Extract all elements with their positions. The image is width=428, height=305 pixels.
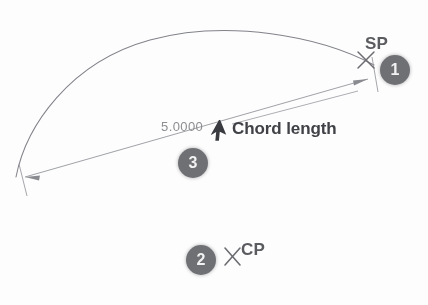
- start-point-label: SP: [365, 34, 388, 54]
- dimension-value-label: 5.0000: [161, 119, 203, 134]
- callout-badge-3: 3: [178, 148, 208, 178]
- callout-badge-1: 1: [380, 55, 410, 85]
- chord-length-label: Chord length: [232, 119, 337, 139]
- sp-point-marker: [358, 52, 374, 68]
- center-point-label: CP: [241, 240, 265, 260]
- cp-point-marker: [225, 248, 240, 265]
- extension-tick-right: [372, 57, 378, 92]
- diagram-canvas: SP CP 5.0000 Chord length 1 2 3: [0, 0, 428, 305]
- mouse-pointer-arrow-icon: [211, 120, 233, 144]
- extension-tick-left: [19, 164, 27, 196]
- callout-badge-2: 2: [186, 245, 216, 275]
- dimension-arrowhead-right: [353, 79, 368, 86]
